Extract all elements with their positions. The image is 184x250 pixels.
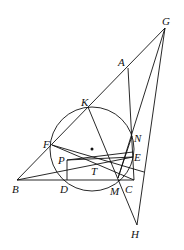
label-c: C [125, 183, 133, 195]
label-f: F [42, 138, 50, 150]
label-a: A [117, 56, 125, 68]
label-e: E [133, 151, 141, 163]
label-p: P [57, 154, 65, 166]
label-k: K [80, 96, 89, 108]
label-g: G [162, 15, 170, 27]
center-point [91, 148, 94, 151]
label-t: T [91, 165, 98, 177]
line-be [17, 157, 133, 180]
label-m: M [109, 185, 120, 197]
geometry-diagram: G A K F B D P T M C E N H [0, 0, 184, 250]
line-ac [128, 68, 134, 180]
label-n: N [133, 132, 142, 144]
label-b: B [12, 183, 19, 195]
line-gh [137, 28, 165, 225]
label-h: H [130, 228, 140, 240]
label-d: D [59, 183, 68, 195]
